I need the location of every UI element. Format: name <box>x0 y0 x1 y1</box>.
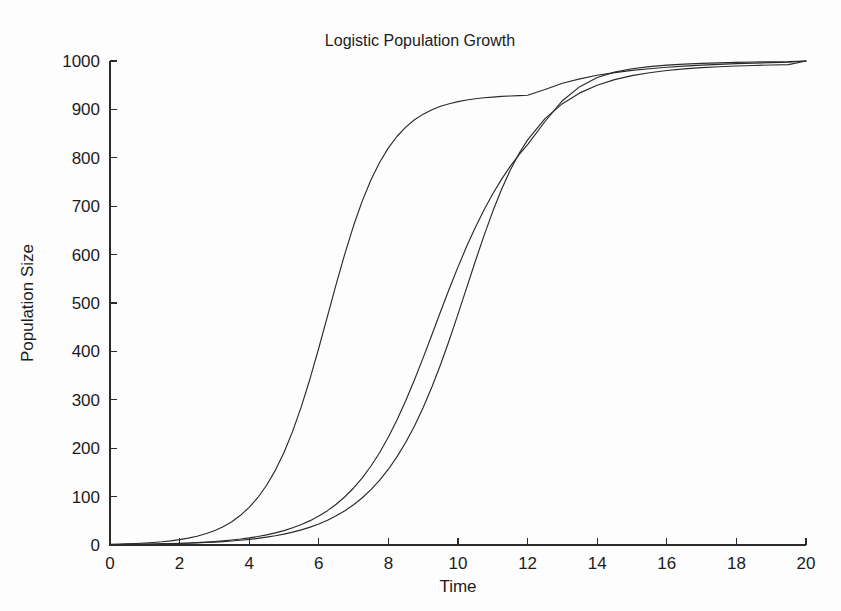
fast-growth-curve <box>110 61 806 544</box>
data-series-group <box>110 61 806 545</box>
axis-frame <box>110 61 806 545</box>
y-tick-label: 200 <box>72 439 100 458</box>
y-tick-label: 0 <box>91 536 100 555</box>
y-tick-label: 1000 <box>62 52 100 71</box>
y-tick-label: 300 <box>72 391 100 410</box>
x-axis-ticks: 02468101214161820 <box>105 538 815 573</box>
x-axis-label: Time <box>439 577 476 596</box>
y-tick-label: 100 <box>72 488 100 507</box>
x-tick-label: 18 <box>727 554 746 573</box>
y-tick-label: 700 <box>72 197 100 216</box>
x-tick-label: 10 <box>449 554 468 573</box>
y-tick-label: 800 <box>72 149 100 168</box>
y-tick-label: 900 <box>72 100 100 119</box>
x-tick-label: 8 <box>384 554 393 573</box>
x-tick-label: 4 <box>244 554 253 573</box>
y-tick-label: 500 <box>72 294 100 313</box>
y-axis-label: Population Size <box>18 244 37 362</box>
x-tick-label: 14 <box>588 554 607 573</box>
slow-growth-curve <box>110 61 806 545</box>
x-tick-label: 12 <box>518 554 537 573</box>
y-tick-label: 400 <box>72 342 100 361</box>
x-tick-label: 2 <box>175 554 184 573</box>
x-tick-label: 0 <box>105 554 114 573</box>
x-tick-label: 16 <box>657 554 676 573</box>
x-tick-label: 20 <box>797 554 816 573</box>
logistic-growth-chart: Logistic Population Growth 0100200300400… <box>0 0 841 611</box>
x-tick-label: 6 <box>314 554 323 573</box>
y-tick-label: 600 <box>72 246 100 265</box>
medium-growth-euler-curve <box>110 61 806 545</box>
chart-title: Logistic Population Growth <box>325 32 515 49</box>
figure-canvas: Logistic Population Growth 0100200300400… <box>0 0 841 611</box>
y-axis-ticks: 01002003004005006007008009001000 <box>62 52 117 555</box>
